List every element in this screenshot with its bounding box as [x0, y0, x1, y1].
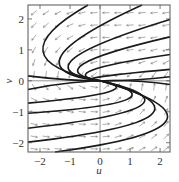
y-tick-label: 1: [19, 44, 25, 56]
field-arrow: [165, 96, 168, 103]
field-arrow: [127, 24, 134, 26]
y-tick-label: 2: [19, 13, 25, 25]
field-arrow: [103, 36, 110, 38]
field-arrow: [103, 12, 110, 14]
field-arrow: [91, 111, 98, 113]
field-arrow: [79, 99, 86, 101]
field-arrow: [115, 148, 122, 150]
field-arrow: [152, 122, 157, 127]
field-arrow: [139, 147, 145, 150]
field-arrow: [31, 136, 38, 138]
y-tick-label: −1: [12, 106, 24, 118]
field-arrow: [91, 24, 98, 26]
field-arrow: [79, 12, 86, 14]
field-arrow: [91, 72, 96, 76]
field-arrow: [115, 24, 122, 26]
field-arrow: [103, 123, 110, 125]
trajectories: [28, 5, 170, 152]
field-arrow: [32, 59, 35, 66]
field-arrow: [43, 136, 50, 138]
field-arrow: [153, 84, 155, 91]
field-arrow: [103, 135, 110, 137]
field-arrow: [139, 61, 146, 64]
field-arrow: [32, 23, 37, 28]
trajectory-lower-3: [28, 81, 145, 128]
field-arrow: [31, 11, 36, 15]
y-axis-label: v: [2, 78, 14, 83]
trajectory-near-axis-lower: [28, 81, 170, 90]
field-arrow: [32, 35, 36, 40]
trajectory-upper-1: [43, 5, 100, 81]
field-arrow: [57, 71, 59, 78]
field-arrow: [91, 123, 98, 125]
field-arrow: [163, 24, 170, 26]
field-arrow: [115, 97, 120, 101]
field-arrow: [163, 61, 169, 64]
field-arrow: [103, 49, 110, 51]
field-arrow: [43, 23, 48, 27]
field-arrow: [127, 37, 134, 39]
y-tick-label: 0: [19, 75, 25, 87]
field-arrow: [44, 47, 48, 53]
field-arrow: [31, 98, 37, 101]
field-arrow: [67, 85, 73, 89]
field-arrow: [55, 35, 60, 39]
field-arrow: [151, 37, 158, 39]
field-arrow: [43, 148, 50, 150]
field-arrow: [55, 148, 62, 150]
field-arrow: [115, 135, 122, 137]
field-arrow: [163, 12, 170, 14]
field-arrow: [163, 147, 168, 151]
field-arrow: [31, 123, 38, 125]
field-arrow: [55, 11, 61, 14]
y-tick-label: −2: [12, 137, 24, 149]
field-arrow: [91, 98, 98, 100]
field-arrow: [151, 49, 158, 51]
field-arrow: [151, 147, 157, 151]
field-arrow: [103, 98, 110, 100]
field-arrow: [139, 12, 146, 14]
field-arrow: [79, 86, 85, 89]
field-arrow: [151, 134, 156, 138]
field-arrow: [67, 24, 73, 27]
field-arrow: [115, 123, 122, 126]
field-arrow: [67, 36, 73, 39]
field-arrow: [91, 148, 98, 150]
field-arrow: [79, 24, 86, 26]
field-arrow: [91, 37, 98, 39]
x-tick-label: −2: [34, 155, 46, 167]
field-arrow: [139, 122, 144, 126]
field-arrow: [56, 47, 61, 52]
x-axis-label: u: [96, 164, 102, 176]
field-arrow: [67, 111, 74, 113]
field-arrow: [164, 134, 169, 139]
field-arrow: [152, 72, 156, 78]
field-arrow: [91, 135, 98, 137]
field-arrow: [79, 111, 86, 113]
field-arrow: [91, 61, 98, 63]
x-tick-label: 2: [157, 155, 163, 167]
x-tick-label: 1: [127, 155, 133, 167]
trajectory-upper-2: [59, 5, 142, 81]
field-arrow: [91, 12, 98, 14]
phase-portrait-chart: −2−1012 210−1−2 u v: [0, 0, 179, 182]
field-arrow: [115, 12, 122, 14]
field-arrow: [79, 123, 86, 125]
field-arrow: [91, 49, 98, 51]
field-arrow: [31, 148, 38, 150]
field-arrow: [127, 49, 134, 51]
field-arrow: [32, 47, 35, 53]
field-arrow: [151, 12, 158, 14]
field-arrow: [139, 49, 146, 51]
field-arrow: [43, 11, 49, 15]
field-arrow: [140, 109, 145, 114]
field-arrow: [103, 110, 110, 112]
field-arrow: [103, 61, 110, 63]
field-arrow: [139, 37, 146, 39]
field-arrow: [141, 84, 143, 91]
field-arrow: [151, 61, 157, 64]
field-arrow: [103, 148, 110, 150]
field-arrow: [139, 24, 146, 26]
field-arrow: [91, 86, 98, 88]
x-tick-label: −1: [64, 155, 76, 167]
